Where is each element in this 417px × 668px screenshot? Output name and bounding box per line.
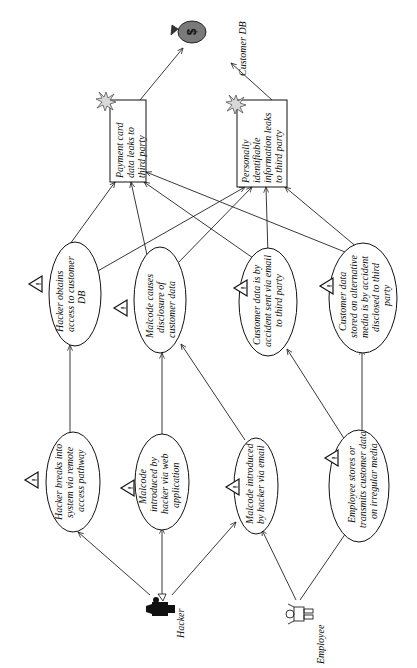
harm-pii-line-2: identifiable [251,137,262,183]
cause-malcode-email: Malcode introduced by hacker via email ! [226,438,278,534]
employee-icon [286,604,313,624]
threat-4-line-4: disclosed to third [370,262,381,332]
actor-hacker: Hacker [146,594,186,639]
threat-4-line-2: stored on alternative [348,254,359,338]
edge-payment-to-money [140,48,183,100]
warning-icon: ! [121,480,135,496]
actor-employee: Employee [286,604,326,665]
cause-4-line-3: on irregular media [368,443,379,519]
harm-pii-line-4: to third party [273,129,284,183]
warning-icon: ! [25,472,39,488]
threat-4-line-3: media is by accident [359,256,370,338]
edge-hacker-to-c1 [78,532,150,595]
harm-payment-line-3: third party [136,135,147,178]
cause-2-line-4: application [170,462,181,508]
warning-icon: ! [226,479,240,495]
edge-t2-to-pii [178,187,252,263]
harm-payment-line-2: data leaks to [125,127,136,178]
threat-1-line-1: Hacker obtains [54,271,65,333]
threat-4-line-1: Customer data [337,272,348,331]
svg-text:!: ! [325,285,334,288]
cause-1-line-1: Hacker breaks into [53,444,64,521]
harm-pii-line-3: information leaks [262,113,273,183]
threat-1-line-2: access to customer [65,256,76,332]
svg-text:!: ! [119,307,128,310]
threat-1-line-3: DB [76,291,87,305]
threat-2-line-2: disclosure of [155,281,166,333]
svg-text:!: ! [330,457,339,460]
harm-pii-leak: Personally identifiable information leak… [226,95,287,187]
svg-text:!: ! [231,486,240,489]
cause-2-line-1: Malcode [137,468,148,505]
svg-text:!: ! [34,283,43,286]
svg-text:!: ! [126,487,135,490]
warning-icon: ! [114,300,128,316]
svg-text:!: ! [30,479,39,482]
harm-payment-card-leak: Payment card data leaks to third party [96,92,147,182]
threat-hacker-obtains-access: Hacker obtains access to customer DB ! [29,242,101,346]
edge-t2-to-payment [131,182,147,255]
cause-2-line-3: hacker via web [159,453,170,514]
threat-3-line-3: to third party [273,273,284,327]
edge-c4-to-t3 [287,349,345,440]
threat-accidental-email: Customer data is by accident sent via em… [234,248,297,356]
hacker-icon [146,594,175,616]
svg-text:!: ! [239,287,248,290]
threat-alternative-media: Customer data stored on alternative medi… [320,243,397,353]
misuse-case-diagram: $ Customer DB Payment card data leaks to… [0,0,417,668]
cause-3-line-1: Malcode introduced [244,443,255,525]
warning-icon: ! [320,278,334,294]
cause-employee-irregular-media: Employee stores or transmits customer da… [325,430,389,542]
cause-4-line-1: Employee stores or [346,446,357,524]
warning-icon: ! [29,276,43,292]
edge-employee-to-c4 [300,530,348,600]
edge-employee-to-c3 [262,530,296,600]
hacker-label: Hacker [175,608,186,639]
customer-db-label: Customer DB [237,21,248,76]
money-bag-glyph: $ [185,28,199,35]
threat-2-line-3: customer data [166,281,177,338]
money-bag-icon: $ [171,21,206,43]
threat-3-line-2: accident sent via email [262,255,273,347]
cause-2-line-2: introduced by [148,457,159,512]
edge-t4-to-pii [285,187,358,248]
threat-3-line-1: Customer data is by [251,264,262,345]
cause-malcode-web: Malcode introduced by hacker via web app… [121,434,189,530]
employee-label: Employee [315,624,326,665]
cause-1-line-2: system via remote [64,446,75,518]
harm-payment-line-1: Payment card [114,122,125,179]
threat-malcode-disclosure: Malcode causes disclosure of customer da… [114,247,186,353]
threat-2-line-1: Malcode causes [144,274,155,339]
edge-c3-to-t2 [181,344,245,440]
cause-3-line-2: by hacker via email [255,445,266,524]
cause-hacker-breaks-in: Hacker breaks into system via remote acc… [25,432,100,532]
edge-t1-to-payment [70,182,115,244]
threat-4-line-5: party [381,284,392,307]
harm-pii-line-1: Personally [240,139,251,184]
edge-hacker-to-c3 [172,522,236,595]
cause-1-line-3: access pathway [75,449,86,512]
cause-4-line-2: transmits customer data [357,431,368,528]
